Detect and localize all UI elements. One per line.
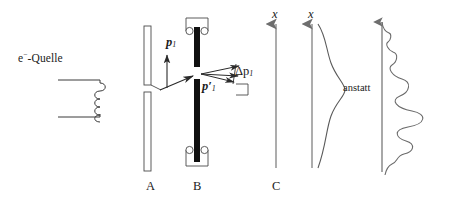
plane-label-c: C: [272, 180, 280, 193]
delta-p1-symbol: Δp: [235, 64, 249, 78]
electron-source-label: e−-Quelle: [18, 51, 63, 64]
plane-label-b: B: [193, 180, 201, 193]
vector-label-p1: p1: [166, 36, 176, 49]
screen-b: [194, 27, 200, 162]
vector-p1prime-subscript: 1: [212, 84, 216, 93]
axis-label-x-c: x: [272, 8, 278, 21]
figure-canvas: e−-Quelle p1 p′1 Δp1 x x anstatt A B C: [0, 0, 451, 207]
anstatt-annotation: anstatt: [343, 83, 370, 94]
interference-fringe-curve: [382, 22, 423, 175]
momentum-p1-arrow: [160, 76, 193, 90]
vector-label-p1-prime: p′1: [202, 80, 216, 93]
vector-label-delta-p1: Δp1: [235, 65, 253, 78]
delta-p1-subscript: 1: [249, 69, 253, 78]
screen-a: [144, 26, 161, 171]
plane-label-a: A: [146, 180, 155, 193]
electron-source-icon: [58, 80, 105, 122]
figure-vector-layer: [0, 0, 451, 207]
broad-peak-curve: [318, 24, 345, 168]
delta-p-bracket: [236, 84, 248, 95]
source-label-rest: -Quelle: [28, 52, 63, 64]
axis-label-x-profile: x: [308, 8, 314, 21]
vector-p1-subscript: 1: [172, 40, 176, 49]
